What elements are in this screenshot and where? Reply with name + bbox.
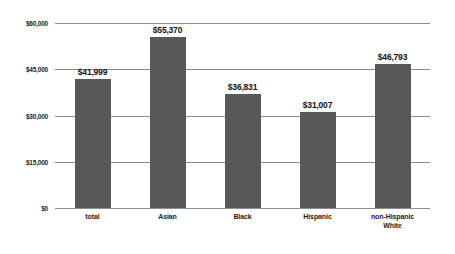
x-axis-category-label: Black	[205, 213, 280, 222]
plot-area: $41,999$55,370$36,831$31,007$46,793	[55, 23, 430, 208]
bar-slot: $46,793	[355, 23, 430, 208]
y-axis-tick-label: $0	[0, 205, 48, 212]
bar-slot: $31,007	[280, 23, 355, 208]
x-axis-label-line: Asian	[130, 213, 205, 222]
bar-slot: $36,831	[205, 23, 280, 208]
y-axis-tick-label: $60,000	[0, 20, 48, 27]
bar-chart: $0$15,000$30,000$45,000$60,000 $41,999$5…	[0, 0, 455, 254]
gridline-0	[55, 208, 430, 209]
bar[interactable]	[375, 64, 411, 208]
bar-slot: $55,370	[130, 23, 205, 208]
y-axis-tick-label: $30,000	[0, 112, 48, 119]
bar[interactable]	[300, 112, 336, 208]
x-axis-category-label: Hispanic	[280, 213, 355, 222]
bar-value-label: $41,999	[78, 67, 107, 77]
bar[interactable]	[150, 37, 186, 208]
y-axis-tick-label: $45,000	[0, 66, 48, 73]
x-axis-label-line: Black	[205, 213, 280, 222]
x-axis-label-line: White	[355, 222, 430, 231]
x-axis-category-label: total	[55, 213, 130, 222]
bar-value-label: $55,370	[153, 25, 182, 35]
y-axis-tick-label: $15,000	[0, 158, 48, 165]
x-axis-label-line: Hispanic	[280, 213, 355, 222]
bar[interactable]	[75, 79, 111, 208]
bar-slot: $41,999	[55, 23, 130, 208]
bar-value-label: $36,831	[228, 82, 257, 92]
bar-value-label: $46,793	[378, 52, 407, 62]
bar-value-label: $31,007	[303, 100, 332, 110]
x-axis-label-line: non-Hispanic	[355, 213, 430, 222]
x-axis-category-label: non-HispanicWhite	[355, 213, 430, 231]
x-axis-category-label: Asian	[130, 213, 205, 222]
bar[interactable]	[225, 94, 261, 208]
x-axis-label-line: total	[55, 213, 130, 222]
